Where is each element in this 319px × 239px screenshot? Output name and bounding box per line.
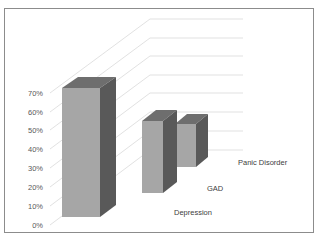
category-label-gad: GAD — [207, 184, 224, 193]
y-tick-0: 0% — [32, 221, 43, 230]
y-tick-10: 10% — [28, 202, 43, 211]
y-tick-50: 50% — [28, 126, 43, 135]
y-tick-20: 20% — [28, 183, 43, 192]
y-tick-70: 70% — [28, 89, 43, 98]
y-tick-30: 30% — [28, 164, 43, 173]
chart-3d-column: 0% 10% 20% 30% 40% 50% 60% 70% Panic Dis… — [0, 0, 319, 239]
y-tick-60: 60% — [28, 108, 43, 117]
y-axis: 0% 10% 20% 30% 40% 50% 60% 70% — [28, 89, 43, 230]
bar-depression — [62, 77, 116, 217]
category-label-depression: Depression — [174, 208, 212, 217]
bar-panic-disorder — [175, 114, 208, 167]
category-label-panic-disorder: Panic Disorder — [238, 158, 288, 167]
y-tick-40: 40% — [28, 145, 43, 154]
bar-gad — [142, 110, 177, 193]
